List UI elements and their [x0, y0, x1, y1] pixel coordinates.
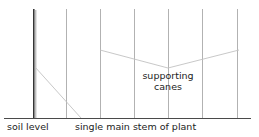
plant-support-diagram: soil level single main stem of plant sup… [0, 0, 259, 137]
supporting-canes-label: supporting canes [129, 70, 207, 92]
supporting-canes-label-line2: canes [129, 81, 207, 92]
main-stem-group [34, 9, 36, 118]
leader-line-canes-right [168, 50, 239, 68]
leader-line-canes-left [100, 50, 168, 68]
leader-lines-supporting-canes [100, 50, 239, 68]
leader-line-main-stem [35, 67, 81, 118]
diagram-canvas [0, 0, 259, 137]
main-stem-label: single main stem of plant [75, 121, 196, 132]
soil-level-label: soil level [7, 121, 49, 132]
supporting-canes-label-line1: supporting [142, 70, 193, 81]
